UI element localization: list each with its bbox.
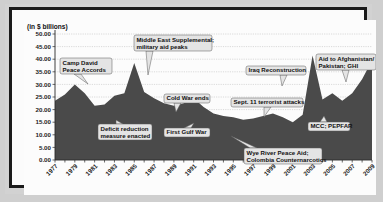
callout-line-1: Aid to Afghanistan/ (319, 55, 375, 62)
callout-camp-david: Camp DavidPeace Accords (60, 58, 112, 84)
y-tick-label: 25.00 (36, 93, 52, 100)
y-tick-label: 40.00 (36, 55, 52, 62)
callout-line-1: First Gulf War (167, 128, 208, 135)
x-tick-label: 2007 (341, 162, 356, 177)
x-tick-label: 1977 (44, 162, 59, 177)
callout-middle-east-supplemental: Middle East Supplemental;military aid pe… (134, 35, 214, 75)
y-tick-label: 30.00 (36, 81, 52, 88)
plot-area-wrapper: 0.005.0010.0015.0020.0025.0030.0035.0040… (24, 20, 376, 195)
x-tick-label: 1979 (64, 162, 79, 177)
unit-note-label: (in $ billions) (27, 23, 68, 31)
y-tick-label: 15.00 (36, 118, 52, 125)
y-tick-label: 0.00 (39, 156, 52, 163)
y-axis-ticks: 0.005.0010.0015.0020.0025.0030.0035.0040… (36, 30, 55, 163)
y-tick-label: 20.00 (36, 106, 52, 113)
callout-line-1: Sept. 11 terrorist attacks (234, 98, 305, 105)
callout-line-2: military aid peaks (137, 43, 189, 50)
y-tick-label: 50.00 (36, 30, 52, 37)
figure-container: 0.005.0010.0015.0020.0025.0030.0035.0040… (0, 0, 383, 202)
figure-frame: 0.005.0010.0015.0020.0025.0030.0035.0040… (9, 7, 367, 188)
area-chart: 0.005.0010.0015.0020.0025.0030.0035.0040… (24, 20, 376, 195)
y-tick-label: 10.00 (36, 131, 52, 138)
callout-line-1: Cold War ends (167, 94, 210, 101)
x-tick-label: 1989 (163, 162, 178, 177)
callout-line-2: measure enacted (101, 132, 151, 139)
x-tick-label: 1983 (104, 162, 119, 177)
x-tick-label: 1995 (223, 162, 238, 177)
callout-line-1: Deficit reduction (101, 125, 149, 132)
x-tick-label: 1985 (123, 162, 138, 177)
callout-line-2: Pakistan; GHI (319, 62, 359, 69)
x-tick-label: 1991 (183, 162, 198, 177)
callout-line-1: Middle East Supplemental; (137, 36, 215, 43)
callout-tail (146, 51, 153, 75)
y-tick-label: 45.00 (36, 43, 52, 50)
callout-iraq-reconstruction: Iraq Reconstruction (246, 66, 306, 86)
callout-sept-11: Sept. 11 terrorist attacks (231, 98, 305, 117)
x-tick-label: 2005 (322, 162, 337, 177)
callout-tail (342, 70, 349, 82)
x-tick-label: 1981 (84, 162, 99, 177)
callout-tail (74, 74, 88, 84)
callout-line-1: Camp David (63, 59, 98, 66)
x-tick-label: 1987 (143, 162, 158, 177)
callout-line-1: Wye River Peace Aid; (247, 149, 309, 156)
callout-line-1: MCC; PEPFAR (311, 122, 354, 129)
y-tick-label: 35.00 (36, 68, 52, 75)
x-tick-label: 1993 (203, 162, 218, 177)
callout-line-2: Peace Accords (63, 66, 107, 73)
x-tick-label: 2009 (361, 162, 376, 177)
callout-line-1: Iraq Reconstruction (249, 66, 307, 73)
y-tick-label: 5.00 (39, 144, 52, 151)
callout-line-2: Colombia Counternarcotics (247, 156, 328, 163)
